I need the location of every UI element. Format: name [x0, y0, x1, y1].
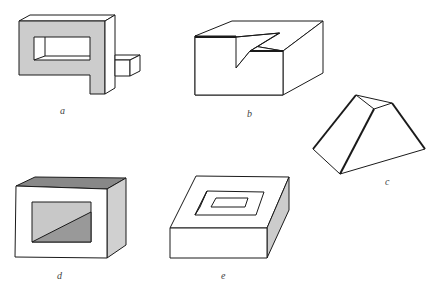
- label-b: b: [247, 108, 252, 119]
- figure-a: [19, 15, 140, 94]
- figure-c: [313, 95, 425, 174]
- label-c: c: [385, 176, 389, 187]
- figure-e: [170, 176, 289, 258]
- label-a: a: [60, 105, 65, 116]
- label-e: e: [221, 270, 225, 281]
- figure-b: [195, 21, 323, 95]
- label-d: d: [57, 270, 62, 281]
- figure-d: [15, 177, 126, 258]
- figure-canvas: [0, 0, 445, 295]
